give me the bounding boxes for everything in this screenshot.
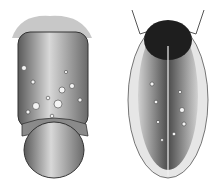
right-illustration: [112, 0, 224, 191]
left-illustration: [0, 0, 112, 191]
right-illustration-panel: [112, 0, 224, 191]
left-illustration-panel: [0, 0, 112, 191]
